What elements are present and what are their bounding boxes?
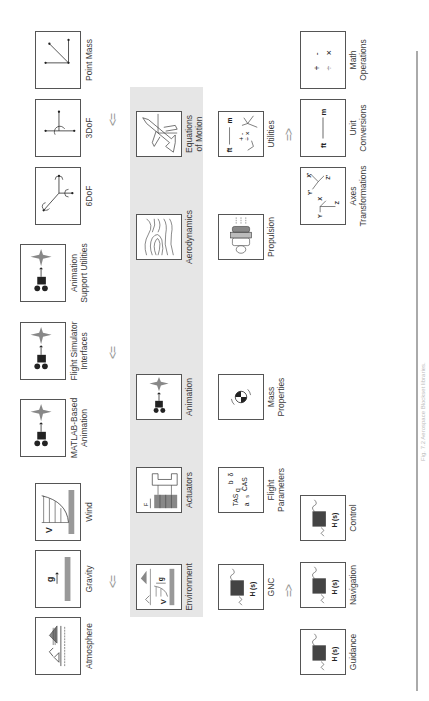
atmosphere-icon (36, 618, 80, 674)
svg-text:Z': Z' (325, 174, 331, 179)
svg-text:g: g (157, 577, 165, 581)
math-operations-block: + - ÷ × (300, 31, 346, 89)
unit-conversions-block: ft m (300, 99, 346, 157)
math-operations-label: MathOperations (348, 15, 368, 105)
six-dof-icon (36, 168, 80, 224)
control-block: H (s) (300, 495, 346, 541)
svg-text:δ: δ (227, 473, 234, 477)
animation-support-block (20, 244, 66, 302)
svg-text:H (s): H (s) (331, 580, 339, 595)
arrow-environment-up: <= (106, 576, 120, 588)
gravity-icon: g (36, 551, 80, 607)
six-dof-block (35, 167, 81, 225)
svg-text:÷ ×: ÷ × (244, 131, 251, 141)
center-of-gravity-icon (219, 375, 263, 419)
aerodynamics-icon (137, 215, 181, 259)
transfer-function-icon: H (s) (219, 565, 263, 609)
svg-text:m: m (319, 109, 328, 116)
svg-text:V: V (44, 527, 54, 533)
svg-text:CAS: CAS (241, 477, 248, 491)
gnc-label: GNC (266, 542, 276, 632)
svg-text:H (s): H (s) (249, 582, 257, 597)
environment-label: Environment (184, 542, 194, 632)
math-icon: + - ÷ × (301, 32, 345, 88)
point-mass-icon (36, 32, 80, 88)
atmosphere-block (35, 617, 81, 675)
wind-label: Wind (84, 467, 94, 557)
flight-parameters-block: TAS q b δ a s CAS (218, 467, 264, 513)
actuators-label: Actuators (184, 445, 194, 535)
wind-block: V (35, 483, 81, 541)
flight-parameters-label: FlightParameters (266, 445, 286, 535)
svg-text:ft: ft (226, 147, 233, 152)
arrow-eom-up: <= (106, 114, 120, 126)
transfer-function-icon: H (s) (301, 630, 345, 674)
wind-icon: V (36, 484, 80, 540)
svg-text:a: a (243, 502, 250, 506)
svg-text:m: m (226, 117, 233, 123)
svg-text:+: + (312, 65, 322, 70)
svg-text:b: b (227, 480, 234, 484)
svg-text:F: F (143, 502, 149, 506)
flight-parameters-icon: TAS q b δ a s CAS (219, 468, 263, 512)
svg-text:Y': Y' (307, 189, 313, 195)
transfer-function-icon: H (s) (301, 563, 345, 607)
point-mass-label: Point Mass (84, 15, 94, 105)
control-label: Control (348, 473, 358, 563)
page-rule (416, 51, 418, 691)
utilities-block: ft m + - ÷ × (218, 111, 264, 157)
aerodynamics-block (136, 214, 182, 260)
aerodynamics-label: Aerodynamics (184, 192, 194, 282)
svg-text:-: - (312, 52, 322, 55)
svg-text:TAS: TAS (232, 493, 239, 506)
equations-of-motion-block (136, 111, 182, 157)
actuators-block: F (136, 467, 182, 513)
environment-icon: V g (137, 565, 181, 609)
svg-text:s: s (244, 495, 250, 498)
guidance-block: H (s) (300, 629, 346, 675)
three-dof-block (35, 99, 81, 157)
unit-conversion-icon: ft m (301, 100, 345, 156)
svg-text:g: g (45, 577, 55, 582)
navigation-block: H (s) (300, 562, 346, 608)
axes-transformations-block: Y Z X Y' X' Z' (300, 167, 346, 225)
svg-text:÷: ÷ (324, 66, 334, 71)
svg-text:X: X (317, 197, 323, 201)
arrow-gnc-down: => (282, 585, 296, 597)
svg-text:H (s): H (s) (331, 513, 339, 528)
animation-icon (21, 323, 65, 379)
arrow-utilities-down: => (282, 129, 296, 141)
panel-animation-label: Animation (184, 352, 194, 442)
arrow-animation-up: <= (106, 347, 120, 359)
mass-properties-label: MassProperties (266, 352, 286, 442)
animation-icon (21, 245, 65, 301)
utilities-icon: ft m + - ÷ × (219, 112, 263, 156)
svg-text:Z: Z (334, 201, 340, 205)
svg-text:X': X' (306, 172, 312, 178)
mass-properties-block (218, 374, 264, 420)
figure-page: Atmosphere g Gravity V Wind (0, 0, 429, 701)
matlab-animation-block (20, 399, 66, 457)
animation-icon (21, 400, 65, 456)
svg-text:ft: ft (319, 143, 328, 149)
gnc-block: H (s) (218, 564, 264, 610)
propulsion-block (218, 214, 264, 260)
utilities-label: Utilities (266, 89, 276, 179)
panel-animation-block (136, 374, 182, 420)
flight-simulator-label: Flight SimulatorInterfaces (69, 306, 89, 396)
environment-block: V g (136, 564, 182, 610)
equations-of-motion-label: Equationsof Motion (184, 89, 204, 179)
axes-icon: Y Z X Y' X' Z' (301, 168, 345, 224)
engine-icon (219, 215, 263, 259)
airplane-icon (137, 112, 181, 156)
svg-text:V: V (159, 598, 168, 604)
matlab-animation-label: MATLAB-BasedAnimation (69, 383, 89, 473)
figure-caption: Fig. 7.2 Aerospace Blockset libraries. (420, 362, 426, 461)
svg-text:Y: Y (317, 214, 323, 218)
svg-text:H (s): H (s) (331, 647, 339, 662)
animation-icon (137, 375, 181, 419)
transfer-function-icon: H (s) (301, 496, 345, 540)
animation-support-label: AnimationSupport Utilities (69, 228, 89, 318)
point-mass-block (35, 31, 81, 89)
gravity-block: g (35, 550, 81, 608)
